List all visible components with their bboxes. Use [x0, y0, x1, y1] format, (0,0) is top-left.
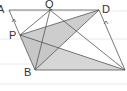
label-b: B — [24, 67, 31, 78]
label-a: A — [0, 4, 4, 15]
geometry-diagram: A Q D P B — [0, 0, 127, 91]
label-d: D — [102, 4, 110, 15]
label-p: P — [9, 30, 16, 41]
label-q: Q — [45, 0, 54, 10]
